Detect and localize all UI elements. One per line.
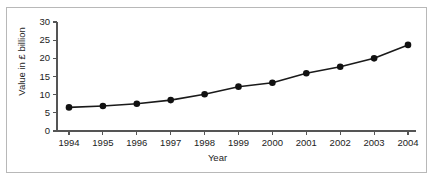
x-tick-label: 1994 xyxy=(52,138,86,148)
x-tick-label: 1997 xyxy=(154,138,188,148)
x-tick-label: 2002 xyxy=(323,138,357,148)
chart-figure: 051015202530 199419951996199719981999200… xyxy=(0,0,435,181)
plot-area: 051015202530 199419951996199719981999200… xyxy=(0,0,435,181)
x-tick-label: 2003 xyxy=(357,138,391,148)
x-tick-label: 1995 xyxy=(86,138,120,148)
x-tick-label: 1998 xyxy=(188,138,222,148)
x-tick-label: 2001 xyxy=(289,138,323,148)
x-tick-label: 2000 xyxy=(255,138,289,148)
x-axis-label: Year xyxy=(0,152,435,163)
x-tick-label: 1999 xyxy=(222,138,256,148)
y-axis-label: Value in £ billion xyxy=(16,17,27,107)
x-tick-label: 1996 xyxy=(120,138,154,148)
x-tick-label: 2004 xyxy=(391,138,425,148)
